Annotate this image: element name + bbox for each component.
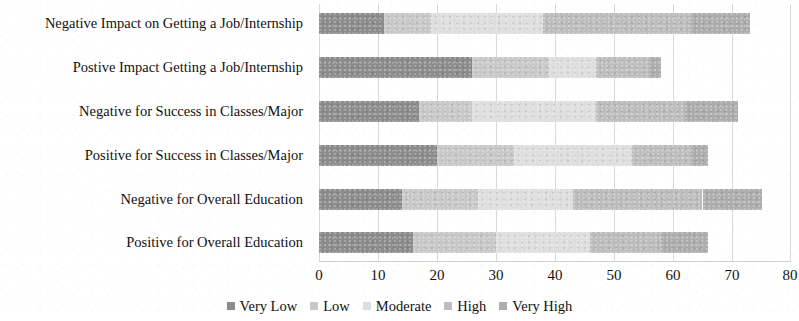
category-label: Positive for Overall Education xyxy=(0,235,303,250)
bar-segment xyxy=(703,189,762,210)
legend-label: Very High xyxy=(512,299,572,314)
gridline-30 xyxy=(496,4,497,262)
legend-item[interactable]: High xyxy=(444,299,486,314)
gridline-50 xyxy=(614,4,615,262)
bar-segment xyxy=(319,13,384,34)
bar-segment xyxy=(691,145,709,166)
category-axis-labels: Negative Impact on Getting a Job/Interns… xyxy=(0,0,311,265)
bar-segment xyxy=(437,145,514,166)
legend-swatch-icon xyxy=(499,302,507,310)
bar-segment xyxy=(685,101,738,122)
x-tick-label: 70 xyxy=(712,268,752,283)
x-tick-label: 0 xyxy=(299,268,339,283)
bar-segment xyxy=(402,189,479,210)
x-tick-label: 20 xyxy=(417,268,457,283)
gridline-40 xyxy=(555,4,556,262)
bar-segment xyxy=(632,145,691,166)
gridline-10 xyxy=(378,4,379,262)
bar-segment xyxy=(419,101,472,122)
bar-segment xyxy=(649,57,661,78)
legend-swatch-icon xyxy=(363,302,371,310)
legend-swatch-icon xyxy=(444,302,452,310)
legend-item[interactable]: Low xyxy=(310,299,350,314)
bar-segment xyxy=(413,232,496,253)
bar-segment xyxy=(431,13,543,34)
bar-segment xyxy=(478,189,572,210)
bar-segment xyxy=(319,232,413,253)
category-label: Negative Impact on Getting a Job/Interns… xyxy=(0,16,303,31)
bar-segment xyxy=(691,13,750,34)
plot-area xyxy=(319,4,791,262)
bar-segment xyxy=(596,57,649,78)
bar-segment xyxy=(661,232,708,253)
bar-segment xyxy=(384,13,431,34)
bar-segment xyxy=(472,101,596,122)
bar-segment xyxy=(514,145,632,166)
x-tick-label: 80 xyxy=(770,268,799,283)
bar-segment xyxy=(590,232,661,253)
gridline-20 xyxy=(437,4,438,262)
gridline-80 xyxy=(790,4,791,262)
x-tick-label: 30 xyxy=(476,268,516,283)
category-label: Positive for Success in Classes/Major xyxy=(0,148,303,163)
x-tick-label: 60 xyxy=(653,268,693,283)
gridline-70 xyxy=(732,4,733,262)
legend-label: Low xyxy=(323,299,350,314)
legend-label: Moderate xyxy=(376,299,432,314)
bar-segment xyxy=(319,145,437,166)
legend-label: Very Low xyxy=(240,299,298,314)
stacked-bar-chart: Negative Impact on Getting a Job/Interns… xyxy=(0,0,799,321)
legend-item[interactable]: Very High xyxy=(499,299,572,314)
bar-segment xyxy=(496,232,590,253)
legend-swatch-icon xyxy=(310,302,318,310)
legend-swatch-icon xyxy=(227,302,235,310)
bar-segment xyxy=(319,189,402,210)
bar-segment xyxy=(472,57,549,78)
x-tick-label: 50 xyxy=(594,268,634,283)
legend-label: High xyxy=(457,299,486,314)
x-tick-label: 10 xyxy=(358,268,398,283)
bar-segment xyxy=(549,57,596,78)
bar-segment xyxy=(319,57,472,78)
bar-segment xyxy=(319,101,419,122)
category-label: Negative for Overall Education xyxy=(0,192,303,207)
legend-item[interactable]: Moderate xyxy=(363,299,432,314)
bar-segment xyxy=(573,189,703,210)
bar-segment xyxy=(596,101,685,122)
legend-item[interactable]: Very Low xyxy=(227,299,298,314)
x-tick-label: 40 xyxy=(535,268,575,283)
category-label: Postive Impact Getting a Job/Internship xyxy=(0,60,303,75)
category-label: Negative for Success in Classes/Major xyxy=(0,104,303,119)
x-axis-line xyxy=(319,261,791,262)
gridline-60 xyxy=(673,4,674,262)
gridline-0 xyxy=(319,4,320,262)
chart-legend: Very LowLowModerateHighVery High xyxy=(0,299,799,314)
bar-segment xyxy=(543,13,691,34)
